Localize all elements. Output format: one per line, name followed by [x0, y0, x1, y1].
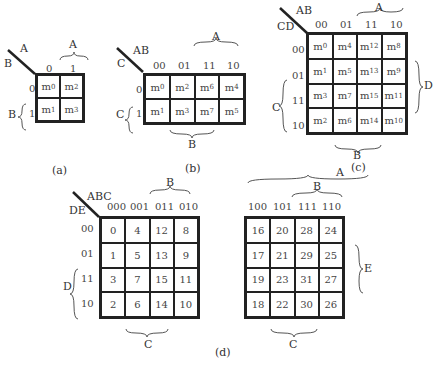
cell: 23	[270, 268, 294, 293]
row-code: 0	[136, 84, 142, 95]
cell: m0	[145, 75, 170, 99]
cell: 13	[150, 243, 174, 268]
cell: m11	[382, 84, 407, 109]
cell: m9	[382, 59, 407, 84]
cell: 19	[246, 268, 270, 293]
row-var-label: B	[4, 57, 12, 70]
col-code: 00	[315, 19, 328, 30]
row-var-label: CD	[277, 20, 294, 33]
cell: m10	[382, 108, 407, 133]
cell: 26	[319, 292, 343, 317]
cell: m7	[333, 84, 358, 109]
col-code: 01	[340, 19, 353, 30]
kmap-grid: m0 m2 m1 m3	[35, 73, 85, 123]
brace-label: D	[424, 79, 433, 92]
cell: 10	[174, 292, 198, 317]
brace-label: B	[166, 176, 174, 189]
row-code: 00	[292, 44, 305, 55]
row-code: 11	[81, 273, 94, 284]
cell: 16	[246, 218, 270, 243]
cell: m0	[308, 34, 333, 59]
cell: m3	[60, 98, 83, 121]
brace-label: C	[272, 101, 280, 114]
cell: m8	[382, 34, 407, 59]
cell: 31	[295, 268, 319, 293]
cell: m1	[37, 98, 60, 121]
caption: (b)	[185, 162, 201, 175]
cell: m3	[308, 84, 333, 109]
col-code: 000	[107, 201, 126, 212]
col-code: 110	[322, 201, 341, 212]
cell: m0	[37, 75, 60, 98]
row-code: 01	[81, 248, 94, 259]
cell: m2	[60, 75, 83, 98]
col-code: 100	[248, 201, 267, 212]
row-code: 10	[292, 120, 305, 131]
brace-label: A	[336, 166, 344, 179]
cell: m2	[308, 108, 333, 133]
row-var-label: DE	[69, 204, 86, 217]
row-code: 11	[292, 95, 305, 106]
brace-label: C	[289, 338, 297, 351]
cell: 25	[319, 243, 343, 268]
cell: 0	[101, 218, 125, 243]
col-code: 001	[130, 201, 149, 212]
row-code: 1	[136, 108, 142, 119]
col-code: 111	[298, 201, 317, 212]
caption: (c)	[351, 161, 366, 174]
caption: (a)	[52, 164, 67, 177]
cell: 29	[295, 243, 319, 268]
cell: 6	[125, 292, 149, 317]
cell: 18	[246, 292, 270, 317]
cell: m6	[195, 75, 220, 99]
cell: 1	[101, 243, 125, 268]
kmap-grid-left: 0 4 12 8 1 5 13 9 3 7 15 11 2 6 14 10	[99, 216, 200, 319]
col-code: 10	[227, 60, 240, 71]
kmap-grid: m0 m4 m12 m8 m1 m5 m13 m9 m3 m7 m15 m11 …	[306, 32, 408, 135]
row-code: 00	[81, 223, 94, 234]
caption: (d)	[215, 346, 231, 359]
cell: m14	[357, 108, 382, 133]
col-code: 010	[179, 201, 198, 212]
cell: 20	[270, 218, 294, 243]
cell: m2	[170, 75, 195, 99]
brace-label: A	[69, 38, 77, 51]
row-var-label: C	[117, 57, 125, 70]
brace-label: A	[375, 1, 383, 14]
col-var-label: AB	[296, 4, 312, 17]
cell: 5	[125, 243, 149, 268]
cell: 28	[295, 218, 319, 243]
col-var-label: AB	[133, 44, 149, 57]
brace-label: B	[8, 108, 16, 121]
col-code: 01	[178, 60, 191, 71]
brace-label: D	[63, 280, 72, 293]
cell: 4	[125, 218, 149, 243]
cell: m1	[308, 59, 333, 84]
cell: m5	[219, 99, 244, 123]
cell: 9	[174, 243, 198, 268]
col-code: 11	[365, 19, 378, 30]
cell: m4	[219, 75, 244, 99]
cell: 12	[150, 218, 174, 243]
cell: m4	[333, 34, 358, 59]
col-code: 11	[203, 60, 216, 71]
col-var-label: A	[20, 42, 28, 55]
cell: m6	[333, 108, 358, 133]
cell: m3	[170, 99, 195, 123]
cell: 11	[174, 268, 198, 293]
brace-label: E	[364, 262, 372, 275]
row-code: 01	[292, 70, 305, 81]
cell: 21	[270, 243, 294, 268]
col-code: 101	[273, 201, 292, 212]
kmap-grid: m0 m2 m6 m4 m1 m3 m7 m5	[143, 73, 246, 125]
cell: 30	[295, 292, 319, 317]
brace-label: C	[144, 338, 152, 351]
brace-label: A	[212, 30, 220, 43]
row-code: 10	[81, 298, 94, 309]
kmap-grid-right: 16 20 28 24 17 21 29 25 19 23 31 27 18 2…	[244, 216, 345, 319]
cell: 22	[270, 292, 294, 317]
cell: 14	[150, 292, 174, 317]
cell: m12	[357, 34, 382, 59]
brace-label: B	[313, 180, 321, 193]
cell: 27	[319, 268, 343, 293]
